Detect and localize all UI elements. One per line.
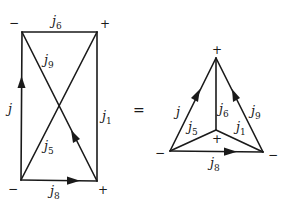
right-graph: + + − − j j9 j6 j5 j1 j8 [155,43,278,173]
arrow-right-icon [224,148,237,156]
sign-top-left: − [9,16,19,30]
label-j6: j6 [49,13,62,31]
label-j9: j9 [248,103,261,121]
label-j: j [173,104,180,119]
sign-top-right: + [100,17,110,31]
label-j: j [5,101,12,116]
equals-sign: = [133,102,145,118]
diagram-canvas: − + − + j6 j9 j j1 j5 j8 = + + − − j j9 … [0,0,283,203]
edge-j-left [21,32,22,180]
label-j5: j5 [185,119,198,137]
label-j9: j9 [41,52,54,70]
edge-j8-base [170,151,263,152]
label-j6: j6 [216,101,229,119]
sign-bottom-right: − [268,148,278,162]
arrow-up-right-icon [191,89,200,102]
label-j8: j8 [47,183,60,201]
label-j5: j5 [41,138,54,156]
edge-j8-bottom [21,180,97,181]
edge-j9-right-side [216,58,263,152]
arrow-up-icon [18,76,26,88]
sign-center: + [212,132,222,146]
label-j1: j1 [99,108,112,126]
label-j8: j8 [207,155,220,173]
arrow-right-icon [67,177,80,185]
arrow-up-left-icon [232,89,240,102]
sign-apex: + [212,43,222,57]
sign-bottom-left: − [155,146,165,160]
sign-bottom-left: − [8,182,18,196]
label-j1: j1 [233,119,246,137]
sign-bottom-right: + [98,183,108,197]
left-graph: − + − + j6 j9 j j1 j5 j8 [5,13,112,201]
arrow-up-left-icon [71,130,80,143]
